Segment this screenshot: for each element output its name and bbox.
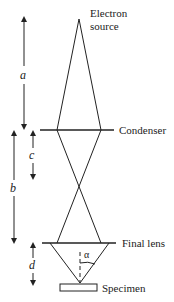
specimen xyxy=(60,284,97,291)
label-c: c xyxy=(29,148,35,162)
label-a: a xyxy=(20,68,26,82)
label-b: b xyxy=(10,181,16,195)
label-electron-source-2: source xyxy=(90,20,119,32)
crossover-rays xyxy=(57,130,101,243)
label-alpha: α xyxy=(84,249,90,260)
converging-rays xyxy=(50,243,109,283)
label-condenser: Condenser xyxy=(119,124,166,136)
label-specimen: Specimen xyxy=(102,282,146,294)
label-final-lens: Final lens xyxy=(122,237,165,249)
label-d: d xyxy=(29,258,36,272)
label-electron-source-1: Electron xyxy=(90,7,128,19)
electron-optics-diagram: a b c d Electron source Condenser Final … xyxy=(0,0,174,302)
source-cone xyxy=(57,19,101,130)
